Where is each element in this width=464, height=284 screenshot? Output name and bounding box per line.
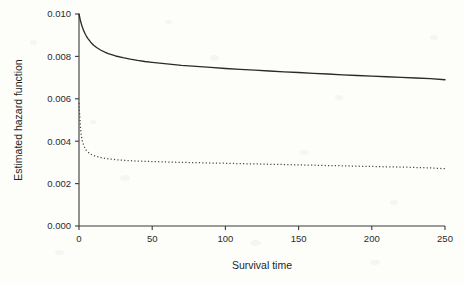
y-tick-label: 0.004 bbox=[47, 136, 71, 147]
hazard-function-figure: 0.0000.0020.0040.0060.0080.010 050100150… bbox=[0, 0, 464, 284]
x-tick-label: 250 bbox=[437, 233, 453, 244]
axes-group bbox=[79, 14, 445, 226]
y-tick-label: 0.000 bbox=[47, 220, 71, 231]
y-tick-label: 0.002 bbox=[47, 178, 71, 189]
x-tick-label: 200 bbox=[364, 233, 380, 244]
y-tick-label: 0.006 bbox=[47, 93, 71, 104]
y-tick-label: 0.010 bbox=[47, 8, 71, 19]
series-group bbox=[79, 14, 445, 169]
y-tick-label: 0.008 bbox=[47, 51, 71, 62]
x-tick-label: 50 bbox=[147, 233, 158, 244]
x-axis-title: Survival time bbox=[232, 259, 292, 271]
x-ticks-group: 050100150200250 bbox=[76, 226, 453, 244]
hazard-chart-canvas: 0.0000.0020.0040.0060.0080.010 050100150… bbox=[0, 0, 464, 284]
x-tick-label: 0 bbox=[76, 233, 81, 244]
series-line-dotted-hazard bbox=[79, 103, 445, 169]
series-line-solid-hazard bbox=[79, 14, 445, 80]
x-tick-label: 100 bbox=[217, 233, 233, 244]
y-ticks-group: 0.0000.0020.0040.0060.0080.010 bbox=[47, 8, 79, 231]
x-tick-label: 150 bbox=[291, 233, 307, 244]
y-axis-title: Estimated hazard function bbox=[12, 59, 24, 181]
